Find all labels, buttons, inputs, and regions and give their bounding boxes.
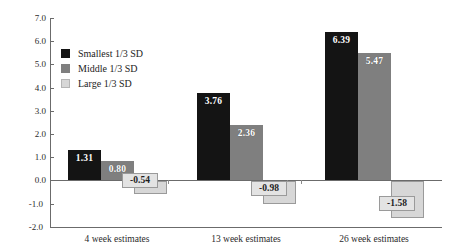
y-axis-tick-label: -2.0 [17, 223, 43, 232]
bar-value-label: -0.54 [122, 173, 158, 188]
bar-chart: 7.0 6.0 5.0 4.0 3.0 2.0 1.0 0.0 -1.0 -2.… [0, 0, 450, 252]
legend-swatch-icon [61, 49, 70, 58]
bar-value-label: 1.31 [68, 153, 101, 163]
bar-value-label: 5.47 [358, 56, 391, 66]
legend-item-label: Smallest 1/3 SD [78, 46, 143, 61]
bar-value-label: 3.76 [197, 96, 230, 106]
bar-value-label: -0.98 [251, 181, 287, 196]
x-axis-category-label: 4 week estimates [57, 234, 177, 245]
x-tick-mark [301, 180, 302, 184]
y-tick-mark [50, 41, 54, 42]
y-axis-tick-label: 1.0 [20, 153, 46, 162]
bar-value-label: 6.39 [325, 35, 358, 45]
bar-value-label: 2.36 [230, 128, 263, 138]
x-axis-category-label: 26 week estimates [314, 234, 434, 245]
y-tick-mark [50, 64, 54, 65]
y-axis-tick-label: 7.0 [20, 14, 46, 23]
y-tick-mark [50, 88, 54, 89]
y-axis-tick-label: 6.0 [20, 37, 46, 46]
y-axis-tick-label: -1.0 [17, 200, 43, 209]
x-axis-category-label: 13 week estimates [186, 234, 306, 245]
bar-value-label: -1.58 [379, 196, 415, 211]
y-axis-tick-label: 5.0 [20, 60, 46, 69]
bar-middle-26week [358, 53, 391, 180]
legend-swatch-icon [61, 79, 70, 88]
y-axis-tick-label: 4.0 [20, 84, 46, 93]
y-axis-tick-label: 0.0 [20, 176, 46, 185]
y-tick-mark [50, 134, 54, 135]
legend-item-label: Large 1/3 SD [78, 76, 132, 91]
y-tick-mark [50, 157, 54, 158]
x-axis-line [50, 227, 442, 228]
y-axis-tick-label: 3.0 [20, 107, 46, 116]
y-tick-mark [50, 111, 54, 112]
x-tick-mark [168, 180, 169, 184]
zero-baseline [50, 180, 442, 181]
y-axis-tick-label: 2.0 [20, 130, 46, 139]
legend-swatch-icon [61, 64, 70, 73]
bar-smallest-26week [325, 32, 358, 180]
y-tick-mark [50, 204, 54, 205]
legend-item-label: Middle 1/3 SD [78, 61, 137, 76]
y-axis-line [50, 18, 51, 227]
bar-smallest-13week [197, 93, 230, 180]
y-tick-mark [50, 18, 54, 19]
